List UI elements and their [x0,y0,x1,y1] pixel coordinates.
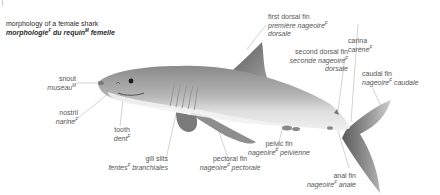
label-carina: carina carèneF [348,37,372,54]
body-shape [98,66,350,130]
label-pelvic-fin: pelvic fin nageoireF pelvienne [240,140,318,157]
pelvic-fin-shape [282,126,292,131]
label-nostril: nostril narineF [28,109,78,126]
label-pectoral-fin: pectoral fin nageoireF pectorale [190,155,270,172]
label-snout: snout museauM [28,75,76,92]
label-tooth: tooth dentF [105,126,139,143]
label-gill-slits: gill slits fentesF branchiales [100,155,168,172]
anal-fin-shape [327,126,333,130]
label-second-dorsal-fin: second dorsal fin seconde nageoireF dors… [288,48,348,74]
label-caudal-fin: caudal fin nageoireF caudale [362,70,418,87]
eye-shape [129,79,134,84]
label-anal-fin: anal fin nageoireF anale [296,172,356,189]
label-first-dorsal-fin: first dorsal fin première nageoireF dors… [268,13,328,39]
